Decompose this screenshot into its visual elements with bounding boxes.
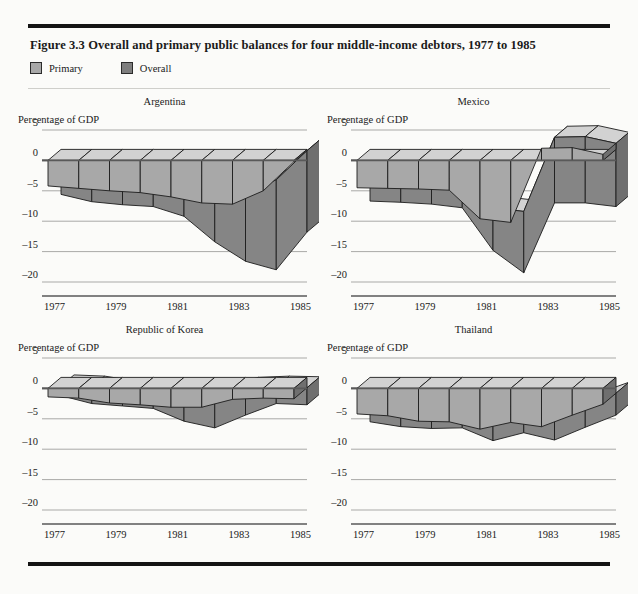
x-tick-label: 1981 [476,529,497,540]
y-tick-label: 0 [342,375,347,386]
y-tick-label: –10 [21,208,38,219]
primary-front-face [48,160,79,188]
primary-front-face [388,160,419,189]
primary-front-face [140,160,171,196]
x-tick-label: 1985 [290,301,311,312]
chart-thailand: 50–5–10–15–2019771979198119831985 [319,324,628,556]
primary-front-face [419,160,450,190]
primary-front-face [449,388,480,429]
x-tick-label: 1983 [538,529,559,540]
y-tick-label: –15 [330,239,347,250]
primary-front-face [140,388,171,407]
legend-label-overall: Overall [140,63,172,74]
y-tick-label: –15 [330,467,347,478]
axis-caption-argentina: Percentage of GDP [18,114,99,125]
x-tick-label: 1981 [167,529,188,540]
x-tick-label: 1985 [599,529,620,540]
primary-front-face [263,388,294,398]
x-tick-label: 1985 [599,301,620,312]
chart-mexico: 50–5–10–15–2019771979198119831985 [319,96,628,328]
panel-mexico: Mexico Percentage of GDP 50–5–10–15–2019… [319,96,628,328]
legend-item-overall: Overall [121,62,172,74]
chart-republic-of-korea: 50–5–10–15–2019771979198119831985 [10,324,319,556]
x-tick-label: 1981 [167,301,188,312]
x-tick-label: 1979 [106,529,127,540]
y-tick-label: 0 [33,147,38,158]
primary-front-face [202,160,233,204]
y-tick-label: –20 [330,497,347,508]
primary-front-face [357,388,388,415]
axis-caption-mexico: Percentage of GDP [327,114,408,125]
x-tick-label: 1981 [476,301,497,312]
y-tick-label: –15 [21,467,38,478]
primary-front-face [171,388,202,407]
x-tick-label: 1979 [415,529,436,540]
panel-title-mexico: Mexico [319,96,628,107]
panel-title-korea: Republic of Korea [10,324,319,335]
primary-front-face [511,388,542,426]
header-divider [28,88,610,89]
primary-front-face [480,388,511,429]
legend: Primary Overall [30,62,209,74]
y-tick-label: –10 [330,208,347,219]
panel-thailand: Thailand Percentage of GDP 50–5–10–15–20… [319,324,628,556]
legend-swatch-primary [30,62,42,74]
y-tick-label: –20 [330,269,347,280]
legend-item-primary: Primary [30,62,83,74]
primary-front-face [480,160,511,222]
y-tick-label: –20 [21,269,38,280]
x-tick-label: 1977 [353,529,374,540]
legend-swatch-overall [121,62,133,74]
top-rule [28,24,610,28]
y-tick-label: –5 [27,178,39,189]
primary-front-face [233,388,264,399]
y-tick-label: –10 [21,436,38,447]
panel-korea: Republic of Korea Percentage of GDP 50–5… [10,324,319,556]
x-tick-label: 1977 [44,529,65,540]
y-tick-label: –5 [336,406,348,417]
axis-caption-thailand: Percentage of GDP [327,342,408,353]
primary-front-face [542,148,573,161]
axis-caption-korea: Percentage of GDP [18,342,99,353]
legend-label-primary: Primary [49,63,83,74]
x-tick-label: 1983 [229,301,250,312]
primary-front-face [419,388,450,421]
panel-title-argentina: Argentina [10,96,319,107]
x-tick-label: 1983 [538,301,559,312]
y-tick-label: –20 [21,497,38,508]
primary-front-face [171,160,202,203]
overall-front-face [555,137,586,203]
x-tick-label: 1979 [106,301,127,312]
primary-front-face [110,160,141,192]
figure-title: Figure 3.3 Overall and primary public ba… [30,38,536,53]
overall-end-cap [307,140,319,232]
primary-front-face [110,388,141,404]
y-tick-label: –5 [336,178,348,189]
x-tick-label: 1983 [229,529,250,540]
y-tick-label: –10 [330,436,347,447]
overall-end-cap [616,132,628,206]
y-tick-label: 0 [33,375,38,386]
chart-argentina: 50–5–10–15–2019771979198119831985 [10,96,319,328]
x-tick-label: 1977 [44,301,65,312]
bottom-rule [28,562,610,566]
x-tick-label: 1977 [353,301,374,312]
x-tick-label: 1979 [415,301,436,312]
primary-front-face [357,160,388,188]
figure-container: Figure 3.3 Overall and primary public ba… [0,0,638,594]
panel-argentina: Argentina Percentage of GDP 50–5–10–15–2… [10,96,319,328]
y-tick-label: –15 [21,239,38,250]
x-tick-label: 1985 [290,529,311,540]
primary-front-face [79,160,110,190]
primary-front-face [388,388,419,421]
y-tick-label: 0 [342,147,347,158]
y-tick-label: –5 [27,406,39,417]
primary-front-face [48,388,79,398]
panel-title-thailand: Thailand [319,324,628,335]
